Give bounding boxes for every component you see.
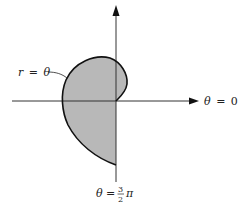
polar-spiral-diagram: r = θ θ = 0 θ = 3 2 π [0,0,240,217]
axis-label-theta-zero: θ = 0 [204,95,238,108]
arrow-up-icon [113,5,120,16]
svg-text:θ: θ [96,187,103,200]
shaded-region [62,57,127,165]
arrow-right-icon [189,98,199,105]
axis-label-theta-three-halves-pi: θ = 3 2 π [96,185,134,204]
svg-text:2: 2 [118,195,123,204]
curve-label: r = θ [18,66,50,79]
svg-text:=: = [106,187,115,200]
svg-text:π: π [125,187,134,200]
leader-line [48,72,67,78]
svg-text:3: 3 [118,185,123,194]
